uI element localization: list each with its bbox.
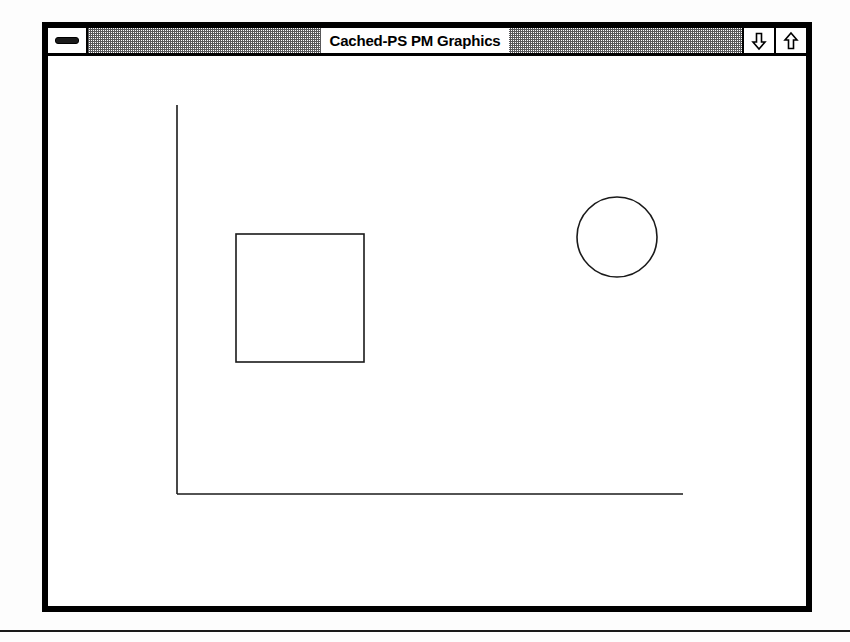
arrow-up-icon [781,31,801,51]
window-title: Cached-PS PM Graphics [321,28,510,53]
client-area[interactable] [48,56,806,606]
circle-shape [577,197,657,277]
dash-icon [55,37,79,44]
title-bar[interactable]: Cached-PS PM Graphics [48,28,806,56]
system-menu-button[interactable] [48,28,88,53]
page-sheet: Cached-PS PM Graphics [0,0,850,642]
titlebar-fill-left [88,28,321,53]
maximize-button[interactable] [774,28,806,53]
graphics-canvas [48,56,806,606]
titlebar-fill-right [509,28,742,53]
rectangle-shape [236,234,364,362]
pm-window: Cached-PS PM Graphics [42,22,812,612]
arrow-down-icon [749,31,769,51]
minimize-button[interactable] [742,28,774,53]
page-footer-rule [0,630,850,632]
